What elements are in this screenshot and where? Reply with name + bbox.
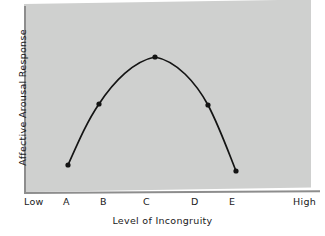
x-tick-label-a: A	[63, 196, 70, 207]
x-tick-label-d: D	[191, 196, 199, 207]
x-tick-label-e: E	[229, 196, 235, 207]
plot-area-background	[24, 0, 311, 192]
y-axis-title: Affective Arousal Response	[17, 8, 28, 188]
x-tick-label-b: B	[100, 196, 107, 207]
x-axis-title: Level of Incongruity	[0, 215, 325, 226]
x-tick-label-c: C	[143, 196, 150, 207]
chart-figure: Affective Arousal Response Low A B C D E…	[0, 0, 325, 236]
x-tick-label-high: High	[293, 196, 316, 207]
x-tick-label-low: Low	[24, 196, 44, 207]
